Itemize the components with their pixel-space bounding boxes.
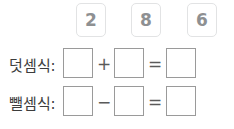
minus-operator-icon: − — [95, 83, 113, 121]
number-tile-strip: 2 8 6 — [0, 0, 234, 42]
number-tile-third[interactable]: 6 — [187, 3, 217, 37]
subtraction-operand-1-box[interactable] — [63, 86, 93, 116]
addition-operand-2-box[interactable] — [114, 48, 144, 78]
addition-equation-row: 덧셈식: + = — [0, 45, 234, 83]
number-tile-first-value: 2 — [85, 12, 97, 29]
math-worksheet: 2 8 6 덧셈식: + = 뺄셈식: − = — [0, 0, 234, 129]
number-tile-second[interactable]: 8 — [131, 3, 161, 37]
subtraction-row-label: 뺄셈식: — [9, 83, 55, 121]
number-tile-third-value: 6 — [196, 12, 208, 29]
subtraction-result-box[interactable] — [166, 86, 196, 116]
plus-operator-icon: + — [95, 45, 113, 83]
addition-operand-1-box[interactable] — [63, 48, 93, 78]
addition-row-label: 덧셈식: — [9, 45, 55, 83]
equals-operator-icon-subtraction: = — [146, 83, 164, 121]
number-tile-first[interactable]: 2 — [76, 3, 106, 37]
subtraction-equation-row: 뺄셈식: − = — [0, 83, 234, 121]
addition-result-box[interactable] — [166, 48, 196, 78]
number-tile-second-value: 8 — [140, 12, 152, 29]
subtraction-operand-2-box[interactable] — [114, 86, 144, 116]
equals-operator-icon-addition: = — [146, 45, 164, 83]
